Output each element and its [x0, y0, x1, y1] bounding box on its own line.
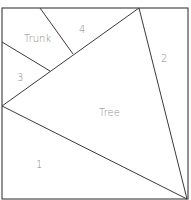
label-section-1: 1 — [36, 159, 42, 170]
label-tree: Tree — [99, 107, 120, 118]
tree-block-diagram: Trunk 4 3 2 Tree 1 — [0, 0, 191, 200]
label-section-3: 3 — [17, 72, 23, 83]
label-trunk: Trunk — [24, 33, 51, 44]
label-section-2: 2 — [161, 53, 167, 64]
label-section-4: 4 — [79, 24, 85, 35]
